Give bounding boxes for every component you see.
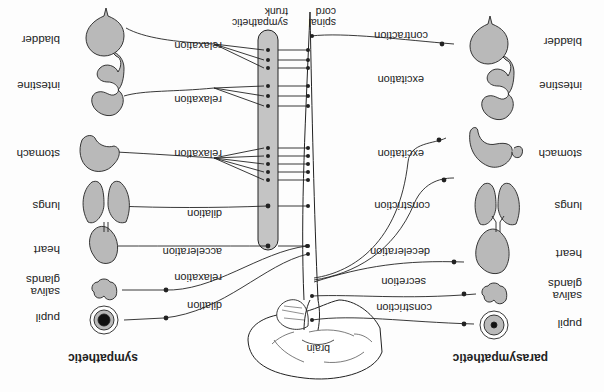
symp-saliva-glands-icon (92, 279, 117, 300)
para-effect-saliva: secretion (381, 276, 426, 288)
para-bladder-icon (470, 16, 508, 64)
symp-organ-lungs: lungs (33, 200, 61, 212)
symp-effect-lungs: dilation (187, 208, 222, 220)
brain-label: brain (307, 343, 330, 354)
para-effect-bladder: contraction (374, 30, 428, 42)
para-organ-pupil: pupil (558, 318, 582, 330)
symp-effect-pupil: dilation (187, 300, 222, 312)
autonomic-nervous-system-diagram: parasympathetic sympathetic brain spinal… (0, 0, 604, 392)
para-stomach-icon (470, 128, 523, 168)
para-organ-heart: heart (556, 248, 582, 260)
para-effect-intestine: excitation (378, 74, 424, 86)
symp-effect-heart: acceleration (163, 246, 222, 258)
symp-organ-bladder: bladder (22, 34, 60, 46)
para-organ-saliva-glands: saliva glands (542, 278, 582, 302)
symp-effect-saliva: relaxation (174, 272, 222, 284)
parasympathetic-title: parasympathetic (453, 352, 548, 364)
symp-effect-bladder: relaxation (174, 40, 222, 52)
symp-organ-stomach: stomach (17, 148, 60, 160)
symp-pupil-icon (90, 306, 118, 334)
para-organ-lungs: lungs (555, 200, 583, 212)
sympathetic-trunk-label: sympathetic trunk (218, 6, 288, 28)
para-effect-heart: deceleration (370, 246, 430, 258)
symp-organ-intestine: intestine (17, 80, 60, 92)
symp-bladder-icon (86, 8, 124, 56)
para-organ-bladder: bladder (544, 36, 582, 48)
para-heart-icon (476, 229, 509, 274)
symp-stomach-icon (80, 136, 119, 172)
symp-organ-heart: heart (34, 244, 60, 256)
symp-effect-stomach: relaxation (174, 148, 222, 160)
symp-organ-pupil: pupil (36, 312, 60, 324)
para-organ-intestine: intestine (539, 80, 582, 92)
para-effect-lungs: constriction (374, 200, 430, 212)
symp-lungs-icon (83, 181, 129, 232)
para-intestine-icon (482, 56, 514, 120)
para-organ-stomach: stomach (539, 148, 582, 160)
para-effect-pupil: constriction (376, 302, 432, 314)
diagram-artwork (0, 0, 604, 392)
symp-effect-intestine: relaxation (174, 94, 222, 106)
symp-intestine-icon (92, 52, 124, 116)
para-effect-stomach: excitation (378, 148, 424, 160)
spinal-cord-label: spinal cord (300, 6, 336, 28)
sympathetic-title: sympathetic (68, 352, 138, 364)
para-pupil-icon (480, 311, 508, 339)
para-lungs-icon (475, 183, 519, 232)
para-saliva-glands-icon (482, 283, 507, 304)
sympathetic-trunk (258, 30, 278, 250)
symp-organ-saliva-glands: saliva glands (16, 274, 60, 298)
